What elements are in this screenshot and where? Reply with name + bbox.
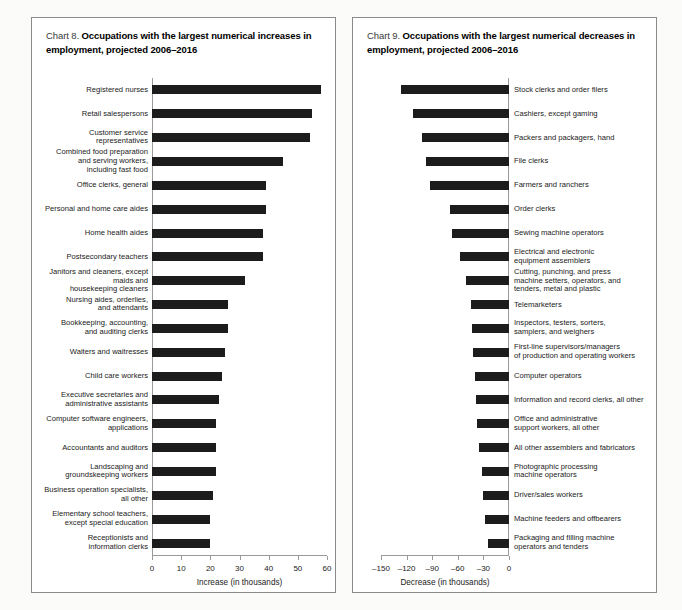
chart-9-title: Chart 9. Occupations with the largest nu… <box>367 29 646 56</box>
bar-label: Home health aides <box>0 229 148 238</box>
bar-label: Elementary school teachers, except speci… <box>0 510 148 528</box>
x-tick-label: 50 <box>293 564 302 573</box>
bar-label: Photographic processing machine operator… <box>514 463 654 481</box>
bar-row: Child care workers <box>152 364 327 388</box>
bar <box>430 181 509 190</box>
bar <box>152 324 228 333</box>
bar <box>401 85 509 94</box>
document-page: Chart 8. Occupations with the largest nu… <box>0 0 682 610</box>
bar-label: Information and record clerks, all other <box>514 396 654 405</box>
x-tick-label: –150 <box>372 564 390 573</box>
bar-row: Inspectors, testers, sorters, samplers, … <box>381 317 509 341</box>
bar <box>482 467 509 476</box>
chart-8-title: Chart 8. Occupations with the largest nu… <box>46 29 325 56</box>
bar-row: Stock clerks and order filers <box>381 78 509 102</box>
bar <box>152 419 216 428</box>
bar-row: Photographic processing machine operator… <box>381 460 509 484</box>
bar <box>485 515 509 524</box>
bar-row: Office and administrative support worker… <box>381 412 509 436</box>
bar <box>488 539 509 548</box>
bar-row: Executive secretaries and administrative… <box>152 388 327 412</box>
bar-row: Customer service representatives <box>152 126 327 150</box>
x-tick <box>181 556 182 560</box>
chart-9-bars: Stock clerks and order filersCashiers, e… <box>381 78 509 555</box>
x-tick-label: 20 <box>206 564 215 573</box>
bar-label: Retail salespersons <box>0 109 148 118</box>
bar-row: Order clerks <box>381 197 509 221</box>
bar-row: Combined food preparation and serving wo… <box>152 150 327 174</box>
bar-row: Personal and home care aides <box>152 197 327 221</box>
bar <box>413 109 509 118</box>
bar-row: Elementary school teachers, except speci… <box>152 507 327 531</box>
x-tick <box>210 556 211 560</box>
chart-8-panel: Chart 8. Occupations with the largest nu… <box>31 17 336 593</box>
bar <box>483 491 509 500</box>
bar-row: Nursing aides, orderlies, and attendants <box>152 293 327 317</box>
bar <box>475 372 509 381</box>
chart-8-title-lead: Chart 8. <box>46 30 79 41</box>
bar-label: Office and administrative support worker… <box>514 415 654 433</box>
bar <box>152 372 222 381</box>
chart-9-plot: Stock clerks and order filersCashiers, e… <box>381 78 509 556</box>
bar-row: Cutting, punching, and press machine set… <box>381 269 509 293</box>
x-tick-label: 0 <box>507 564 511 573</box>
chart-8-bars: Registered nursesRetail salespersonsCust… <box>152 78 327 555</box>
bar <box>152 229 263 238</box>
x-tick <box>458 556 459 560</box>
bar-label: Waiters and waitresses <box>0 348 148 357</box>
chart-9-panel: Chart 9. Occupations with the largest nu… <box>352 17 657 593</box>
bar <box>152 133 310 142</box>
bar-label: Electrical and electronic equipment asse… <box>514 248 654 266</box>
bar-label: Landscaping and groundskeeping workers <box>0 463 148 481</box>
chart-8-title-bold: Occupations with the largest numerical i… <box>46 30 311 55</box>
x-tick <box>509 556 510 560</box>
bar-label: Computer operators <box>514 372 654 381</box>
bar <box>152 467 216 476</box>
bar-row: Home health aides <box>152 221 327 245</box>
bar-label: Telemarketers <box>514 300 654 309</box>
bar-row: Receptionists and information clerks <box>152 531 327 555</box>
bar <box>426 157 509 166</box>
x-tick <box>407 556 408 560</box>
x-tick-label: –60 <box>451 564 464 573</box>
bar <box>452 229 509 238</box>
bar-label: Executive secretaries and administrative… <box>0 391 148 409</box>
x-tick <box>327 556 328 560</box>
bar <box>152 157 283 166</box>
bar <box>450 205 509 214</box>
bar <box>152 395 219 404</box>
bar-row: Retail salespersons <box>152 102 327 126</box>
x-tick <box>298 556 299 560</box>
bar-label: Child care workers <box>0 372 148 381</box>
chart-8-plot: Registered nursesRetail salespersonsCust… <box>152 78 327 556</box>
bar-row: First-line supervisors/managers of produ… <box>381 340 509 364</box>
bar-label: Postsecondary teachers <box>0 252 148 261</box>
bar-row: Machine feeders and offbearers <box>381 507 509 531</box>
bar-label: Bookkeeping, accounting, and auditing cl… <box>0 320 148 338</box>
bar-row: File clerks <box>381 150 509 174</box>
chart-8-x-axis-label: Increase (in thousands) <box>197 578 283 587</box>
bar-row: Accountants and auditors <box>152 436 327 460</box>
chart-9-title-bold: Occupations with the largest numerical d… <box>367 30 635 55</box>
bar-row: Business operation specialists, all othe… <box>152 483 327 507</box>
bar-label: Stock clerks and order filers <box>514 86 654 95</box>
chart-9-x-axis-label: Decrease (in thousands) <box>400 578 489 587</box>
bar <box>466 276 509 285</box>
bar <box>422 133 509 142</box>
bar <box>152 300 228 309</box>
bar-label: Janitors and cleaners, except maids and … <box>0 268 148 294</box>
bar-row: Postsecondary teachers <box>152 245 327 269</box>
bar-label: Computer software engineers, application… <box>0 415 148 433</box>
bar <box>152 348 225 357</box>
bar <box>472 324 509 333</box>
x-tick-label: –120 <box>398 564 416 573</box>
bar-row: Waiters and waitresses <box>152 340 327 364</box>
x-tick <box>240 556 241 560</box>
bar-row: Computer operators <box>381 364 509 388</box>
bar-label: Personal and home care aides <box>0 205 148 214</box>
bar <box>152 276 245 285</box>
bar-label: Accountants and auditors <box>0 443 148 452</box>
bar <box>152 109 312 118</box>
x-tick <box>152 556 153 560</box>
bar-row: Farmers and ranchers <box>381 173 509 197</box>
